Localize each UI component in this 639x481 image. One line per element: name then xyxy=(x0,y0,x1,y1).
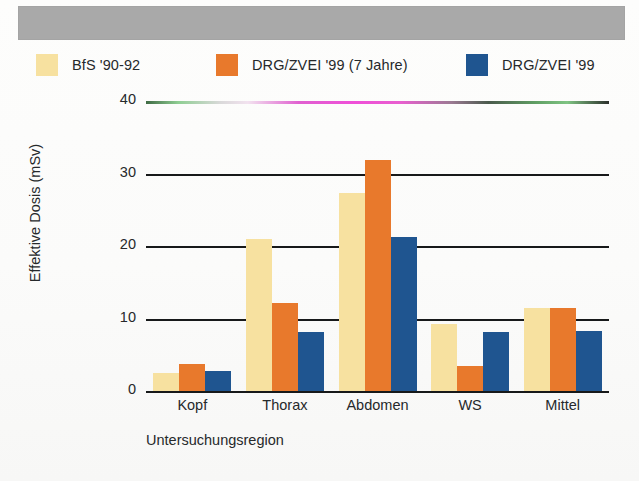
bar-kopf-series-0 xyxy=(153,373,179,391)
bar-group-thorax xyxy=(246,100,324,391)
bar-ws-series-1 xyxy=(457,366,483,391)
y-tick-label-10: 10 xyxy=(96,309,136,325)
bar-group-abdomen xyxy=(339,100,417,391)
bar-ws-series-2 xyxy=(483,332,509,391)
y-tick-label-30: 30 xyxy=(96,164,136,180)
y-tick-label-20: 20 xyxy=(96,236,136,252)
y-axis-title: Effektive Dosis (mSv) xyxy=(27,113,43,313)
y-tick-label-40: 40 xyxy=(96,91,136,107)
bar-thorax-series-1 xyxy=(272,303,298,391)
bar-abdomen-series-2 xyxy=(391,237,417,391)
bar-group-mittel xyxy=(524,100,602,391)
bar-kopf-series-1 xyxy=(179,364,205,391)
bar-abdomen-series-1 xyxy=(365,160,391,391)
bar-kopf-series-2 xyxy=(205,371,231,391)
chart-plot-area: Effektive Dosis (mSv) 010203040 KopfThor… xyxy=(0,0,639,481)
bar-thorax-series-2 xyxy=(298,332,324,391)
bar-group-kopf xyxy=(153,100,231,391)
y-tick-label-0: 0 xyxy=(96,381,136,397)
bar-group-ws xyxy=(431,100,509,391)
bar-abdomen-series-0 xyxy=(339,193,365,391)
bar-mittel-series-0 xyxy=(524,308,550,391)
bar-ws-series-0 xyxy=(431,324,457,391)
bar-groups xyxy=(146,100,609,391)
bar-thorax-series-0 xyxy=(246,239,272,391)
x-axis-baseline xyxy=(146,391,609,393)
x-axis-title: Untersuchungsregion xyxy=(146,432,284,448)
bar-mittel-series-1 xyxy=(550,308,576,391)
x-tick-label-mittel: Mittel xyxy=(503,397,623,413)
bar-mittel-series-2 xyxy=(576,331,602,391)
